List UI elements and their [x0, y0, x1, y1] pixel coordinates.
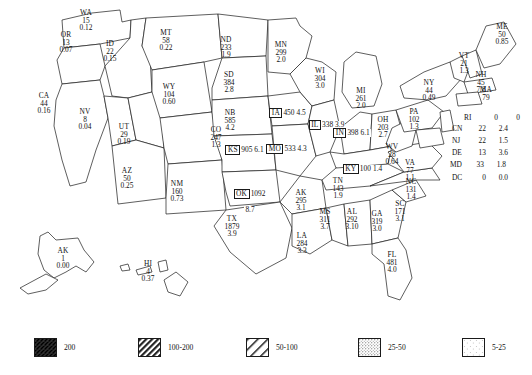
callout-md: MD331.8	[450, 160, 506, 169]
legend-swatch-sparse-stipple	[462, 338, 485, 357]
state-AL	[344, 200, 372, 246]
callout-ri: RI00	[464, 113, 520, 122]
us-map-svg	[0, 0, 532, 375]
callout-density: 3.6	[486, 148, 508, 157]
state-AR	[280, 176, 326, 214]
legend-item-3: 25-50	[358, 338, 406, 357]
state-MD-DE	[416, 128, 444, 148]
legend-label: 200	[64, 343, 75, 352]
callout-abbr: NJ	[452, 136, 469, 145]
callout-count: 0	[481, 113, 498, 122]
callout-count: 13	[469, 148, 486, 157]
state-HI-3	[158, 260, 168, 272]
state-WY	[152, 62, 212, 118]
legend-item-0: 200	[34, 338, 75, 357]
callout-density: 0	[498, 113, 520, 122]
state-HI-4	[164, 272, 188, 296]
state-IN	[340, 112, 372, 154]
state-HI-1	[120, 264, 130, 271]
legend-label: 25-50	[388, 343, 406, 352]
callout-density: 0.0	[486, 173, 508, 182]
state-CT-RI	[456, 92, 482, 106]
state-CA	[54, 80, 108, 186]
state-OR	[57, 44, 105, 84]
state-MT	[142, 14, 222, 70]
callout-density: 1.8	[484, 160, 506, 169]
callout-abbr: RI	[464, 113, 481, 122]
legend-swatch-wide-diagonal-hatch	[246, 338, 269, 357]
callout-count: 22	[469, 136, 486, 145]
state-NM	[166, 160, 226, 214]
state-KS	[214, 134, 276, 172]
callout-density: 2.4	[486, 124, 508, 133]
state-LA	[292, 208, 332, 254]
map-legend: 200 100-200	[0, 330, 532, 375]
state-PA	[396, 100, 444, 132]
callout-count: 0	[469, 173, 486, 182]
state-WA	[62, 10, 131, 48]
callout-cn: CN222.4	[452, 124, 508, 133]
legend-swatch-dense-crosshatch-dark	[34, 338, 57, 357]
state-TX	[214, 202, 292, 274]
callout-density: 1.5	[486, 136, 508, 145]
state-GA	[370, 190, 406, 244]
callout-nj: NJ221.5	[452, 136, 508, 145]
callout-abbr: DC	[452, 173, 469, 182]
state-AK-tail	[20, 274, 58, 294]
callout-abbr: MD	[450, 160, 467, 169]
state-SD	[212, 56, 268, 100]
state-ME	[476, 22, 516, 68]
state-OK	[222, 170, 280, 206]
legend-label: 100-200	[168, 343, 193, 352]
legend-item-2: 50-100	[246, 338, 298, 357]
callout-count: 33	[467, 160, 484, 169]
state-NB	[212, 96, 272, 136]
legend-label: 50-100	[276, 343, 298, 352]
callout-abbr: CN	[452, 124, 469, 133]
legend-swatch-dense-diagonal-hatch	[138, 338, 161, 357]
callout-count: 22	[469, 124, 486, 133]
legend-label: 5-25	[492, 343, 506, 352]
legend-item-4: 5-25	[462, 338, 506, 357]
state-FL	[372, 238, 412, 300]
state-MA	[464, 78, 496, 94]
state-HI-2	[136, 266, 152, 275]
callout-de: DE133.6	[452, 148, 508, 157]
state-AK-inset	[38, 232, 94, 278]
state-MO	[272, 124, 316, 176]
legend-item-1: 100-200	[138, 338, 193, 357]
state-AZ	[112, 140, 166, 204]
callout-abbr: DE	[452, 148, 469, 157]
us-map-figure: WA150.12OR130.07CA440.16ID220.15NV80.04U…	[0, 0, 532, 375]
state-MI	[342, 52, 382, 108]
legend-swatch-dense-stipple	[358, 338, 381, 357]
state-ND	[218, 14, 268, 58]
callout-dc: DC00.0	[452, 173, 508, 182]
